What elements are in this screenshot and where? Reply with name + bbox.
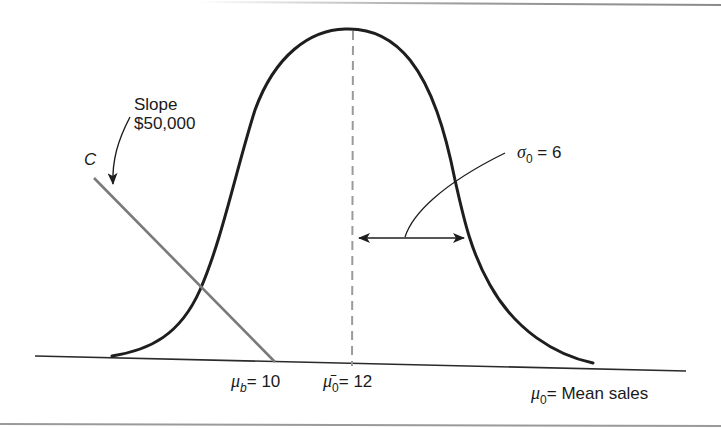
- sigma-leader-line: [405, 153, 505, 237]
- axis-mu-symbol: μ: [531, 383, 540, 403]
- slope-label-title: Slope: [134, 96, 195, 113]
- axis-value: = Mean sales: [547, 384, 649, 403]
- bottom-border: [0, 424, 721, 426]
- mu-b-subscript: b: [240, 381, 247, 395]
- sigma-symbol: σ: [517, 142, 526, 162]
- slope-arrow: [113, 117, 130, 184]
- axis-subscript: 0: [540, 393, 547, 407]
- sigma-label: σ0 = 6: [517, 143, 561, 161]
- diagram-canvas: [0, 0, 721, 428]
- x-axis: [35, 356, 686, 371]
- sigma-value: = 6: [537, 143, 561, 162]
- cost-line-label: C: [84, 151, 96, 168]
- sigma-subscript: 0: [526, 152, 533, 166]
- top-border: [200, 2, 721, 5]
- slope-label-value: $50,000: [134, 115, 195, 132]
- mu-b-value: = 10: [247, 372, 281, 391]
- mu-bar-subscript: 0: [332, 381, 339, 395]
- slope-label: Slope $50,000: [134, 96, 195, 132]
- mu-b-symbol: μ: [231, 371, 240, 391]
- mean-dashed-line: [352, 31, 353, 366]
- cost-line-c: [94, 178, 275, 362]
- mu-b-label: μb= 10: [231, 372, 280, 390]
- mu-bar-value: = 12: [339, 372, 373, 391]
- axis-label: μ0= Mean sales: [531, 384, 648, 402]
- mu-bar-label: μ̄0= 12: [323, 372, 372, 390]
- mu-bar-symbol: μ̄: [323, 371, 332, 391]
